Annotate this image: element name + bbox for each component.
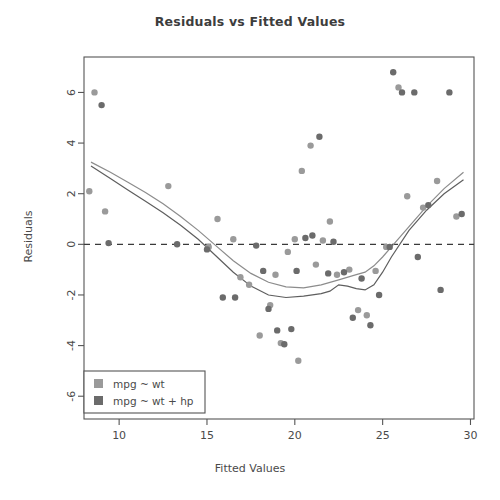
data-point bbox=[265, 306, 271, 312]
data-point bbox=[91, 89, 97, 95]
data-point bbox=[341, 269, 347, 275]
data-point bbox=[232, 294, 238, 300]
legend-label: mpg ~ wt + hp bbox=[113, 395, 194, 407]
x-axis-label: Fitted Values bbox=[0, 462, 500, 475]
data-point bbox=[411, 89, 417, 95]
data-point bbox=[285, 249, 291, 255]
x-axis-tick-label: 15 bbox=[200, 429, 214, 442]
data-point bbox=[102, 208, 108, 214]
data-point bbox=[299, 168, 305, 174]
legend-swatch bbox=[94, 396, 103, 405]
data-point bbox=[372, 268, 378, 274]
plot-frame bbox=[84, 57, 474, 419]
y-axis-tick-label: -2 bbox=[66, 289, 79, 300]
data-point bbox=[364, 312, 370, 318]
data-point bbox=[260, 268, 266, 274]
data-point bbox=[446, 89, 452, 95]
data-point bbox=[434, 178, 440, 184]
data-point bbox=[293, 268, 299, 274]
x-axis-tick-label: 25 bbox=[376, 429, 390, 442]
y-axis-tick-label: 0 bbox=[66, 241, 79, 248]
data-point bbox=[237, 274, 243, 280]
data-point bbox=[281, 341, 287, 347]
data-point bbox=[376, 292, 382, 298]
data-point bbox=[334, 272, 340, 278]
data-point bbox=[437, 287, 443, 293]
data-point bbox=[320, 237, 326, 243]
data-point bbox=[350, 315, 356, 321]
data-point bbox=[204, 246, 210, 252]
chart-figure: Residuals vs Fitted Values 1015202530642… bbox=[0, 0, 500, 500]
data-point bbox=[86, 188, 92, 194]
y-axis-tick-label: 4 bbox=[66, 140, 79, 147]
legend-label: mpg ~ wt bbox=[113, 378, 165, 390]
x-axis-tick-label: 30 bbox=[463, 429, 477, 442]
data-point bbox=[292, 236, 298, 242]
data-point bbox=[390, 69, 396, 75]
data-point bbox=[253, 242, 259, 248]
data-point bbox=[302, 235, 308, 241]
data-point bbox=[425, 202, 431, 208]
data-point bbox=[274, 327, 280, 333]
data-point bbox=[399, 89, 405, 95]
data-point bbox=[214, 216, 220, 222]
data-point bbox=[307, 142, 313, 148]
y-axis-tick-label: -6 bbox=[66, 391, 79, 402]
x-axis-tick-label: 10 bbox=[112, 429, 126, 442]
smoother-line bbox=[91, 166, 464, 298]
data-point bbox=[165, 183, 171, 189]
y-axis-tick-label: 6 bbox=[66, 89, 79, 96]
data-point bbox=[325, 270, 331, 276]
data-point bbox=[257, 332, 263, 338]
data-point bbox=[105, 240, 111, 246]
x-axis-tick-label: 20 bbox=[288, 429, 302, 442]
data-point bbox=[355, 307, 361, 313]
y-axis-tick-label: -4 bbox=[66, 340, 79, 351]
y-axis-tick-label: 2 bbox=[66, 190, 79, 197]
data-point bbox=[316, 134, 322, 140]
data-point bbox=[295, 358, 301, 364]
data-point bbox=[272, 272, 278, 278]
data-point bbox=[358, 275, 364, 281]
scatter-plot: 10152025306420-2-4-6mpg ~ wtmpg ~ wt + h… bbox=[0, 0, 500, 500]
data-point bbox=[288, 326, 294, 332]
smoother-line bbox=[91, 162, 464, 288]
data-point bbox=[459, 211, 465, 217]
data-point bbox=[309, 232, 315, 238]
data-point bbox=[174, 241, 180, 247]
data-point bbox=[404, 193, 410, 199]
data-point bbox=[330, 239, 336, 245]
data-point bbox=[415, 254, 421, 260]
data-point bbox=[313, 261, 319, 267]
data-point bbox=[327, 218, 333, 224]
data-point bbox=[246, 282, 252, 288]
data-point bbox=[98, 102, 104, 108]
y-axis-label: Residuals bbox=[22, 187, 35, 287]
data-point bbox=[220, 294, 226, 300]
data-point bbox=[387, 244, 393, 250]
data-point bbox=[367, 322, 373, 328]
legend-swatch bbox=[94, 379, 103, 388]
data-point bbox=[230, 236, 236, 242]
